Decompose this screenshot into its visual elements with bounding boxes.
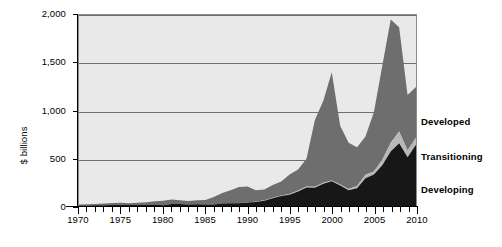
- x-tick-1976: [129, 207, 130, 212]
- y-tick-label-0: 0: [14, 202, 66, 212]
- x-tick-1993: [273, 207, 274, 212]
- x-tick-1996: [298, 207, 299, 212]
- x-tick-2004: [366, 207, 367, 212]
- x-tick-2008: [400, 207, 401, 212]
- x-tick-2009: [409, 207, 410, 212]
- x-tick-label-1970: 1970: [58, 214, 98, 225]
- x-tick-1992: [264, 207, 265, 212]
- x-tick-2001: [341, 207, 342, 212]
- x-tick-1979: [154, 207, 155, 212]
- x-tick-1977: [137, 207, 138, 212]
- x-tick-1997: [307, 207, 308, 212]
- y-tick-label-1500: 1,500: [14, 57, 66, 67]
- x-tick-1974: [112, 207, 113, 212]
- x-tick-label-2000: 2000: [312, 214, 352, 225]
- y-tick-label-2000: 2,000: [14, 9, 66, 19]
- x-tick-1990: [248, 207, 249, 214]
- x-tick-1989: [239, 207, 240, 212]
- x-tick-1999: [324, 207, 325, 212]
- legend-item-developed: Developed: [421, 116, 470, 127]
- x-tick-label-2005: 2005: [355, 214, 395, 225]
- x-tick-1986: [214, 207, 215, 212]
- x-tick-1981: [171, 207, 172, 212]
- x-tick-label-2010: 2010: [397, 214, 437, 225]
- x-tick-1972: [95, 207, 96, 212]
- x-tick-2000: [332, 207, 333, 214]
- x-tick-1978: [146, 207, 147, 212]
- x-tick-2007: [392, 207, 393, 212]
- x-tick-2006: [383, 207, 384, 212]
- x-tick-2002: [349, 207, 350, 212]
- x-tick-1994: [281, 207, 282, 212]
- x-tick-1998: [315, 207, 316, 212]
- stacked-area-series: [79, 15, 416, 206]
- x-tick-1973: [103, 207, 104, 212]
- x-tick-label-1995: 1995: [270, 214, 310, 225]
- x-tick-1995: [290, 207, 291, 214]
- legend-item-transitioning: Transitioning: [421, 151, 483, 162]
- x-tick-1991: [256, 207, 257, 212]
- x-tick-1983: [188, 207, 189, 212]
- x-tick-1982: [180, 207, 181, 212]
- y-axis-line: [77, 14, 78, 207]
- y-tick-label-1000: 1,000: [14, 106, 66, 116]
- plot-area: [78, 14, 417, 207]
- x-tick-1980: [163, 207, 164, 214]
- legend-item-developing: Developing: [421, 184, 474, 195]
- x-tick-1985: [205, 207, 206, 214]
- x-tick-label-1975: 1975: [100, 214, 140, 225]
- x-tick-1984: [197, 207, 198, 212]
- x-tick-1988: [231, 207, 232, 212]
- x-tick-2003: [358, 207, 359, 212]
- x-tick-1971: [86, 207, 87, 212]
- x-tick-1975: [120, 207, 121, 214]
- x-tick-label-1985: 1985: [185, 214, 225, 225]
- x-tick-1987: [222, 207, 223, 212]
- y-tick-label-500: 500: [14, 154, 66, 164]
- x-tick-label-1980: 1980: [143, 214, 183, 225]
- x-tick-1970: [78, 207, 79, 214]
- x-tick-2005: [375, 207, 376, 214]
- x-tick-2010: [417, 207, 418, 214]
- chart-container: $ billions 05001,0001,5002,000 197019751…: [0, 0, 502, 247]
- x-tick-label-1990: 1990: [228, 214, 268, 225]
- y-axis-title: $ billions: [18, 111, 29, 181]
